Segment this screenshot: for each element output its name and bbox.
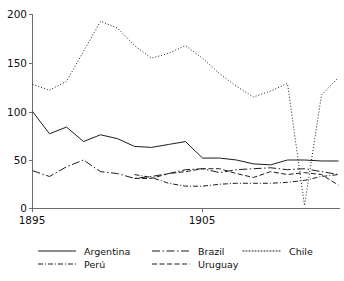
legend-item-brazil[interactable]: Brazil xyxy=(152,246,225,257)
legend-label-per: Perú xyxy=(84,259,105,270)
line-chart: 200 150 100 50 0 1895 1905 Argen xyxy=(0,0,344,281)
y-tick-label-150: 150 xyxy=(7,57,27,69)
legend-label-argentina: Argentina xyxy=(84,246,130,257)
legend-item-uruguay[interactable]: Uruguay xyxy=(152,259,239,270)
chart-canvas: 200 150 100 50 0 1895 1905 Argen xyxy=(0,0,344,281)
legend-label-chile: Chile xyxy=(289,246,313,257)
x-tick-label-1895: 1895 xyxy=(19,214,46,226)
series-line-argentina xyxy=(33,112,339,165)
legend-item-argentina[interactable]: Argentina xyxy=(38,246,130,257)
y-tick-label-200: 200 xyxy=(7,8,27,20)
y-axis-tick-labels: 200 150 100 50 0 xyxy=(7,8,27,214)
y-tick-label-0: 0 xyxy=(20,202,27,214)
series-layer xyxy=(33,21,339,205)
y-tick-label-50: 50 xyxy=(14,154,27,166)
series-line-chile xyxy=(33,21,339,205)
chart-legend: ArgentinaBrazilChilePerúUruguay xyxy=(38,246,313,270)
legend-item-chile[interactable]: Chile xyxy=(243,246,313,257)
series-line-brazil xyxy=(33,160,339,178)
legend-label-uruguay: Uruguay xyxy=(198,259,239,270)
x-axis xyxy=(33,209,341,213)
x-tick-label-1905: 1905 xyxy=(189,214,216,226)
legend-label-brazil: Brazil xyxy=(198,246,225,257)
y-axis xyxy=(29,14,33,209)
legend-item-per[interactable]: Perú xyxy=(38,259,105,270)
x-axis-tick-labels: 1895 1905 xyxy=(19,214,216,226)
y-tick-label-100: 100 xyxy=(7,106,27,118)
